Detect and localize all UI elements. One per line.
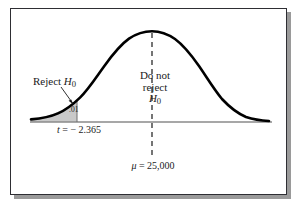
mu-symbol: μ [131, 160, 136, 171]
do-not-reject-label: Do not reject H0 [124, 70, 186, 106]
statistical-figure: Reject H0 Do not reject H0 .01 t = − 2.3… [0, 0, 299, 209]
do-not-reject-h-symbol: H [149, 92, 157, 104]
mean-value: = 25,000 [139, 160, 175, 171]
do-not-reject-h-subscript: 0 [157, 96, 161, 106]
reject-h-symbol: H [64, 75, 72, 87]
reject-h-subscript: 0 [72, 79, 76, 89]
mean-label: μ = 25,000 [113, 161, 193, 172]
tail-area-label: .01 [69, 106, 79, 114]
do-not-reject-line1: Do not [124, 70, 186, 82]
reject-text: Reject [33, 75, 61, 87]
critical-value-equation: = − 2.365 [62, 124, 101, 135]
do-not-reject-symbol-line: H0 [124, 93, 186, 106]
critical-value-label: t = − 2.365 [57, 125, 101, 136]
t-symbol: t [57, 124, 60, 135]
reject-region-label: Reject H0 [33, 76, 76, 89]
